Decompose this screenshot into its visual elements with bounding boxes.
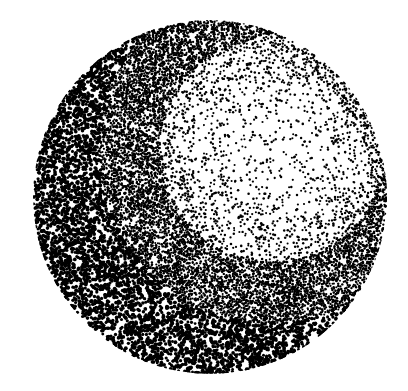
- stippled-sphere: [0, 0, 408, 391]
